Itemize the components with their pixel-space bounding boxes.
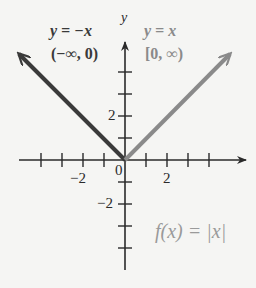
right-domain-label: [0, ∞) xyxy=(145,45,183,63)
function-label: f(x) = |x| xyxy=(155,220,226,243)
x-tick-label-2: 2 xyxy=(163,170,171,187)
left-equation-label: y = −x xyxy=(50,22,92,40)
y-tick-label-2: 2 xyxy=(108,107,116,124)
x-tick-label-0: 0 xyxy=(115,162,123,179)
y-axis-label: y xyxy=(121,10,127,26)
plot-area xyxy=(0,0,256,288)
abs-value-graph: y = −x (−∞, 0) y y = x [0, ∞) 2 −2 −2 0 … xyxy=(0,0,256,288)
y-tick-label-neg2: −2 xyxy=(97,195,113,212)
x-tick-label-neg2: −2 xyxy=(70,170,86,187)
series-right-line xyxy=(125,54,230,160)
left-domain-label: (−∞, 0) xyxy=(51,45,98,63)
right-equation-label: y = x xyxy=(144,22,176,40)
